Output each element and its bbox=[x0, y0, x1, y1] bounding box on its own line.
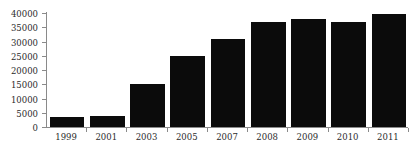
x-axis-tick-label: 2007 bbox=[207, 133, 247, 142]
x-axis-tick-label: 2005 bbox=[167, 133, 207, 142]
x-axis-line bbox=[46, 127, 408, 128]
x-axis-tick bbox=[247, 128, 248, 132]
x-axis-tick bbox=[287, 128, 288, 132]
x-axis-tick bbox=[408, 128, 409, 132]
y-axis-tick-label: 5000 bbox=[16, 109, 38, 118]
y-axis-tick: 15000 bbox=[42, 84, 47, 85]
y-axis-tick: 10000 bbox=[42, 99, 47, 100]
x-axis-tick bbox=[126, 128, 127, 132]
y-axis-tick: 0 bbox=[42, 127, 47, 128]
x-axis-tick-label: 2001 bbox=[86, 133, 126, 142]
y-axis-tick-label: 15000 bbox=[11, 80, 38, 89]
x-axis-tick-label: 2010 bbox=[328, 133, 368, 142]
y-axis-tick-label: 10000 bbox=[11, 95, 38, 104]
y-axis-tick-label: 30000 bbox=[11, 38, 38, 47]
bar bbox=[251, 22, 286, 128]
y-axis-tick: 25000 bbox=[42, 56, 47, 57]
y-axis-tick-label: 0 bbox=[33, 123, 38, 132]
bar bbox=[372, 14, 407, 127]
x-axis-tick-label: 1999 bbox=[46, 133, 86, 142]
x-axis-tick-label: 2003 bbox=[126, 133, 166, 142]
x-axis-tick bbox=[167, 128, 168, 132]
y-axis-tick: 20000 bbox=[42, 70, 47, 71]
x-axis-tick bbox=[368, 128, 369, 132]
y-axis-tick-label: 25000 bbox=[11, 52, 38, 61]
x-axis-tick-label: 2008 bbox=[247, 133, 287, 142]
x-axis-tick-label: 2011 bbox=[368, 133, 408, 142]
y-axis-tick: 35000 bbox=[42, 27, 47, 28]
y-axis-tick: 5000 bbox=[42, 113, 47, 114]
y-axis-tick-label: 20000 bbox=[11, 66, 38, 75]
bar bbox=[331, 22, 366, 128]
y-axis-tick-label: 40000 bbox=[11, 9, 38, 18]
bar bbox=[170, 56, 205, 127]
x-axis-tick bbox=[207, 128, 208, 132]
bar bbox=[90, 116, 125, 127]
y-axis-tick: 30000 bbox=[42, 42, 47, 43]
bar bbox=[211, 39, 246, 127]
x-axis-tick bbox=[328, 128, 329, 132]
y-axis-tick-label: 35000 bbox=[11, 23, 38, 32]
y-axis-tick: 40000 bbox=[42, 13, 47, 14]
bar bbox=[291, 19, 326, 127]
bar-chart: 0500010000150002000025000300003500040000… bbox=[0, 0, 416, 149]
bar bbox=[130, 84, 165, 127]
bar bbox=[50, 117, 85, 127]
x-axis-tick bbox=[86, 128, 87, 132]
x-axis-tick-label: 2009 bbox=[287, 133, 327, 142]
